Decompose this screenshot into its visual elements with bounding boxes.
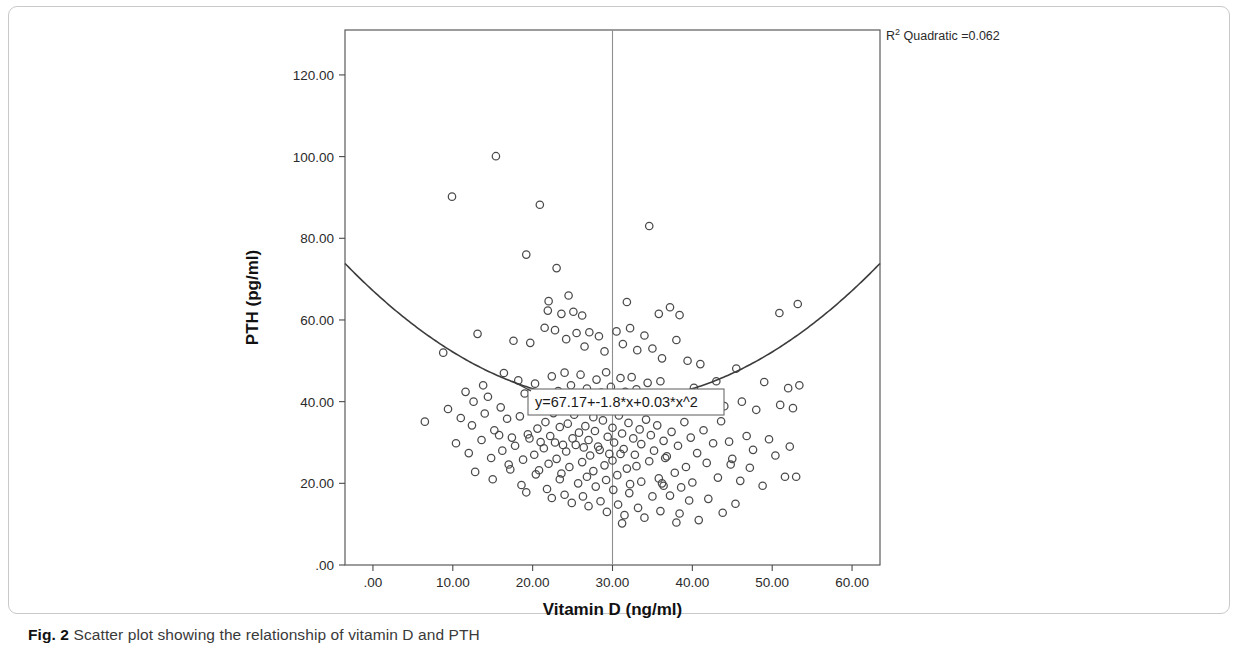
y-axis-title: PTH (pg/ml) [243, 250, 262, 345]
figure-caption: Fig. 2 Scatter plot showing the relation… [28, 626, 1208, 644]
chart-area: .0010.0020.0030.0040.0050.0060.00.0020.0… [0, 0, 1240, 620]
x-tick-label: 10.00 [436, 575, 470, 590]
x-tick-label: 30.00 [596, 575, 630, 590]
y-tick-label: 40.00 [300, 395, 334, 410]
x-axis-title: Vitamin D (ng/ml) [543, 600, 682, 619]
y-tick-label: 120.00 [293, 68, 334, 83]
x-tick-label: 40.00 [675, 575, 709, 590]
y-tick-label: 60.00 [300, 313, 334, 328]
equation-label-text: y=67.17+-1.8*x+0.03*x^2 [535, 394, 698, 410]
y-tick-label: .00 [315, 558, 334, 573]
y-tick-label: 100.00 [293, 150, 334, 165]
y-tick-label: 80.00 [300, 231, 334, 246]
x-tick-label: .00 [364, 575, 383, 590]
caption-label: Fig. 2 [28, 626, 69, 643]
x-tick-label: 50.00 [755, 575, 789, 590]
x-tick-label: 60.00 [835, 575, 869, 590]
r-squared-label: R2 Quadratic =0.062 [886, 27, 1000, 43]
scatter-plot-svg: .0010.0020.0030.0040.0050.0060.00.0020.0… [0, 0, 1240, 620]
caption-text: Scatter plot showing the relationship of… [74, 626, 480, 643]
r-squared-suffix: Quadratic =0.062 [900, 29, 1000, 43]
figure-container: .0010.0020.0030.0040.0050.0060.00.0020.0… [0, 0, 1240, 665]
x-tick-label: 20.00 [516, 575, 550, 590]
r-squared-prefix: R [886, 29, 895, 43]
y-tick-label: 20.00 [300, 476, 334, 491]
